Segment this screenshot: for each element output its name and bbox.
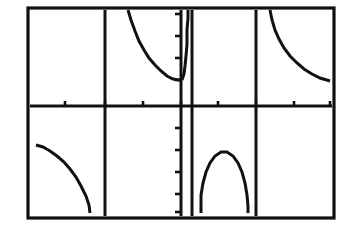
branch-lower-left [36, 145, 90, 213]
branch-upper-spike [182, 10, 188, 80]
calculator-screenshot [0, 0, 353, 233]
function-curve-branches [36, 10, 330, 213]
graph-svg [0, 0, 353, 233]
branch-upper-left [128, 10, 182, 80]
graph-plot-area [0, 0, 353, 233]
branch-lower-arch [201, 152, 248, 213]
branch-upper-right [270, 10, 330, 81]
